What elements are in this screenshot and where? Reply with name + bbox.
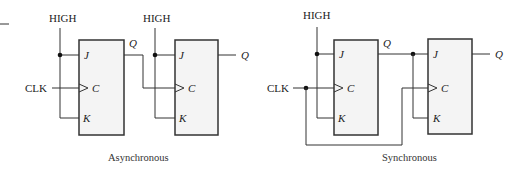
async-ff1-pin-c: C bbox=[92, 82, 100, 94]
sync-ff1-high-label: HIGH bbox=[303, 9, 331, 21]
async-ff1-junction-dot bbox=[58, 53, 63, 58]
async-ff1-pin-k: K bbox=[82, 112, 91, 124]
sync-caption: Synchronous bbox=[382, 152, 437, 163]
async-ff2-pin-c: C bbox=[188, 82, 196, 94]
async-ff2-pin-k: K bbox=[178, 112, 187, 124]
sync-ff1-pin-c: C bbox=[347, 82, 355, 94]
async-ff1-high-label: HIGH bbox=[49, 12, 77, 24]
async-ff2-junction-dot bbox=[153, 53, 158, 58]
async-ff2-q-label: Q bbox=[241, 49, 249, 61]
synchronous-counter: HIGH J C K CLK Q J C K Q Synchronous bbox=[267, 9, 503, 163]
async-caption: Asynchronous bbox=[108, 152, 169, 163]
async-ff1-q-label: Q bbox=[129, 37, 137, 49]
sync-ff2-pin-c: C bbox=[441, 82, 449, 94]
sync-ff2-pin-k: K bbox=[432, 112, 441, 124]
async-ff1-q-to-ff2-clock-wire bbox=[124, 55, 175, 88]
sync-ff1-high-wire bbox=[317, 27, 334, 118]
sync-ff1-junction-dot bbox=[315, 52, 320, 57]
sync-ff2-q-label: Q bbox=[495, 48, 503, 60]
async-ff2-high-wire bbox=[155, 28, 175, 118]
asynchronous-counter: HIGH J C K CLK Q HIGH J C K Q Asynchrono… bbox=[25, 12, 249, 163]
counter-diagram: HIGH J C K CLK Q HIGH J C K Q Asynchrono… bbox=[0, 0, 522, 170]
async-ff1-high-wire bbox=[60, 28, 79, 118]
async-ff2-high-label: HIGH bbox=[143, 12, 171, 24]
sync-ff1-q-label: Q bbox=[383, 37, 391, 49]
sync-clk-label: CLK bbox=[267, 82, 289, 94]
sync-ff1-pin-k: K bbox=[337, 112, 346, 124]
sync-ff1-q-to-ff2-k-wire bbox=[413, 54, 428, 118]
async-clk-label: CLK bbox=[25, 82, 47, 94]
